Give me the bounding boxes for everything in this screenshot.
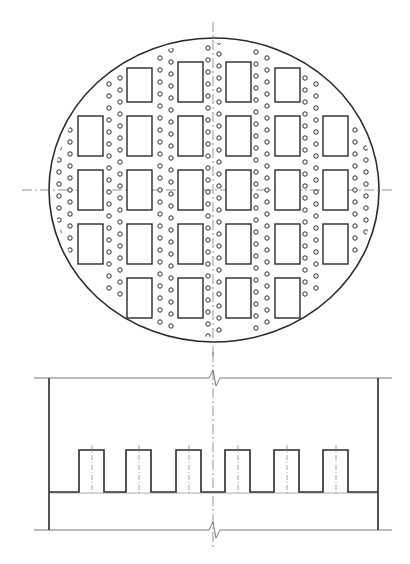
hole [107,106,111,110]
hole [314,262,318,266]
hole [303,232,307,236]
hole [303,100,307,104]
tunnel-cap [78,224,103,264]
hole [364,170,368,174]
hole [206,94,210,98]
hole [217,124,221,128]
hole [265,152,269,156]
hole [169,168,173,172]
hole [254,182,258,186]
hole [254,326,258,330]
hole [217,100,221,104]
hole [107,130,111,134]
hole [206,226,210,230]
hole [217,88,221,92]
hole [217,292,221,296]
hole [353,224,357,228]
hole [254,218,258,222]
hole [68,140,72,144]
hole [107,142,111,146]
hole [217,268,221,272]
hole [265,80,269,84]
hole [107,214,111,218]
hole [68,176,72,180]
tunnel-cap [127,68,152,102]
hole [303,208,307,212]
hole [364,218,368,222]
hole [158,308,162,312]
hole [169,144,173,148]
hole [107,202,111,206]
hole [364,182,368,186]
hole [158,188,162,192]
hole [206,190,210,194]
hole [217,160,221,164]
hole [254,230,258,234]
hole [217,112,221,116]
tunnel-cap [275,68,300,102]
hole [353,176,357,180]
tunnel-cap [78,170,103,210]
hole [314,250,318,254]
hole [254,170,258,174]
hole [265,320,269,324]
tray-profile [49,450,378,492]
hole [158,236,162,240]
hole [303,112,307,116]
hole [254,62,258,66]
hole [254,266,258,270]
hole [107,166,111,170]
hole [206,106,210,110]
hole [68,152,72,156]
hole [158,104,162,108]
hole [107,262,111,266]
hole [158,68,162,72]
hole [217,76,221,80]
hole [118,196,122,200]
hole [206,82,210,86]
hole [303,184,307,188]
hole [169,276,173,280]
hole [265,176,269,180]
hole [169,264,173,268]
hole [265,212,269,216]
hole [206,166,210,170]
hole [254,98,258,102]
hole [158,176,162,180]
tunnel-cap [127,170,152,210]
hole [303,292,307,296]
hole [158,128,162,132]
hole [118,172,122,176]
hole [217,244,221,248]
hole [206,274,210,278]
hole [303,148,307,152]
hole [68,128,72,132]
hole [206,334,210,338]
hole [303,76,307,80]
hole [314,118,318,122]
hole [158,272,162,276]
hole [169,240,173,244]
hole [303,256,307,260]
hole [303,280,307,284]
hole [206,130,210,134]
tunnel-cap [127,278,152,318]
hole [206,118,210,122]
hole [158,260,162,264]
hole [254,86,258,90]
hole [107,274,111,278]
hole [206,238,210,242]
hole [265,284,269,288]
hole [158,80,162,84]
hole [158,200,162,204]
hole [217,304,221,308]
tunnel-cap [275,224,300,264]
hole [353,200,357,204]
hole [314,178,318,182]
hole [254,278,258,282]
hole [206,58,210,62]
hole [118,76,122,80]
hole [206,154,210,158]
hole [254,206,258,210]
hole [169,192,173,196]
